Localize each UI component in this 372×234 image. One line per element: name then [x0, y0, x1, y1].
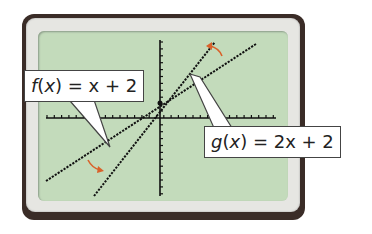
g-rhs: = 2x + 2 — [247, 131, 334, 152]
graph-plot — [0, 0, 372, 234]
g-callout-pointer — [190, 74, 232, 128]
axes — [46, 40, 276, 196]
g-label-callout: g(x) = 2x + 2 — [204, 126, 341, 158]
f-name: f — [31, 75, 37, 96]
f-rhs: = x + 2 — [62, 75, 137, 96]
arrowhead-lower — [97, 166, 104, 173]
g-line — [94, 42, 215, 196]
g-name: g — [211, 131, 222, 152]
intersection-point — [158, 101, 163, 106]
f-var: x — [44, 75, 55, 96]
rotation-arrows — [88, 42, 222, 173]
g-var: x — [229, 131, 240, 152]
f-label-callout: f(x) = x + 2 — [24, 70, 144, 102]
f-line — [46, 44, 256, 181]
